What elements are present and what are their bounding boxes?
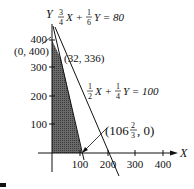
y-tick-label-400: 400	[31, 33, 48, 45]
y-tick-label-100: 100	[31, 118, 48, 130]
svg-text:X +: X +	[65, 11, 83, 23]
svg-text:2: 2	[131, 121, 135, 130]
x-tick-label-400: 400	[155, 158, 172, 170]
svg-text:4: 4	[59, 18, 63, 27]
svg-text:4: 4	[116, 92, 120, 101]
equation-label-2: 1 2 X + 1 4 Y = 100	[87, 82, 159, 101]
point-label-106: (106 2 3 , 0)	[105, 121, 154, 140]
svg-text:2: 2	[88, 92, 92, 101]
svg-text:, 0): , 0)	[137, 123, 154, 138]
svg-text:1: 1	[116, 82, 120, 91]
svg-text:3: 3	[131, 131, 135, 140]
x-tick-label-100: 100	[72, 158, 89, 170]
svg-text:Y = 100: Y = 100	[123, 85, 159, 97]
corner-mark	[0, 183, 6, 187]
svg-text:6: 6	[87, 18, 91, 27]
point-label-32-336: (32, 336)	[64, 52, 105, 65]
x-tick-label-200: 200	[100, 158, 117, 170]
y-axis-label: Y	[46, 7, 54, 21]
equation-label-1: 3 4 X + 1 6 Y = 80	[58, 8, 125, 27]
y-tick-label-200: 200	[31, 90, 48, 102]
y-tick-label-300: 300	[31, 61, 48, 73]
svg-text:1: 1	[88, 82, 92, 91]
point-label-0-400: (0, 400)	[14, 45, 49, 58]
svg-text:3: 3	[59, 8, 63, 17]
x-axis-arrow-icon	[170, 151, 178, 156]
lp-graph: Y X 100 200 300 400 100 200 300 400 (0, …	[0, 0, 194, 189]
svg-text:X +: X +	[94, 85, 112, 97]
svg-text:(106: (106	[105, 123, 129, 138]
x-axis-label: X	[179, 146, 188, 160]
svg-text:Y = 80: Y = 80	[94, 11, 125, 23]
x-tick-label-300: 300	[127, 158, 144, 170]
svg-text:1: 1	[87, 8, 91, 17]
